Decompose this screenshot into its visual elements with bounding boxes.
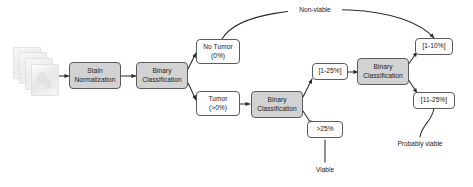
node-no-tumor[interactable]: No Tumor (0%) [196, 39, 240, 64]
outcome-line: Probably [397, 140, 423, 147]
node-binary-classification-2[interactable]: Binary Classification [251, 91, 303, 118]
outcome-line: Non-viable [299, 6, 331, 13]
edge-binary3-to-range11-25 [408, 79, 417, 93]
node-over-25[interactable]: >25% [307, 121, 343, 138]
tissue-blob [44, 80, 52, 89]
node-line: Classification [257, 105, 297, 114]
node-line: Classification [363, 72, 403, 81]
edge-range11-25-to-probably-viable [420, 108, 434, 137]
node-range-1-10[interactable]: [1-10%] [415, 38, 453, 55]
edge-binary2-to-range1-25 [303, 79, 312, 97]
edge-binary1-to-notumor [188, 53, 196, 69]
outcome-label-viable: Viable [303, 166, 347, 175]
node-line: Tumor [208, 95, 227, 104]
node-line: Classification [142, 76, 182, 85]
node-binary-classification-1[interactable]: Binary Classification [136, 62, 188, 89]
node-line: (0%) [211, 52, 225, 61]
node-line: Binary [153, 67, 172, 76]
node-line: Binary [374, 63, 393, 72]
outcome-line: Viable [316, 166, 334, 173]
node-line: (>0%) [209, 104, 227, 113]
node-line: No Tumor [203, 43, 232, 52]
node-line: [1-25%] [318, 67, 341, 76]
node-range-11-25[interactable]: [11-25%] [413, 92, 455, 109]
edge-binary1-to-tumor [188, 83, 196, 100]
node-line: >25% [316, 125, 333, 134]
flowchart-canvas: Stain Normalization Binary Classificatio… [0, 0, 473, 187]
node-line: [1-10%] [422, 42, 445, 51]
outcome-line: viable [425, 140, 442, 147]
outcome-label-non-viable: Non-viable [288, 6, 342, 15]
node-stain-normalization[interactable]: Stain Normalization [69, 62, 121, 89]
node-tumor[interactable]: Tumor (>0%) [196, 91, 240, 116]
slide-sheet [31, 64, 59, 96]
slide-stack-icon [13, 47, 61, 99]
node-line: Stain [87, 67, 102, 76]
node-line: Normalization [75, 76, 116, 85]
node-binary-classification-3[interactable]: Binary Classification [357, 58, 409, 85]
node-range-1-25[interactable]: [1-25%] [312, 63, 348, 80]
outcome-label-probably-viable: Probably viable [396, 140, 444, 149]
node-line: [11-25%] [421, 96, 447, 105]
node-line: Binary [268, 96, 287, 105]
